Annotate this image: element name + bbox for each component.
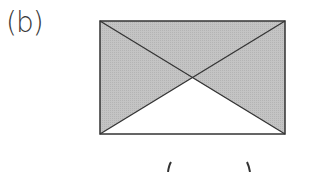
left-paren-partial <box>168 162 171 172</box>
right-paren-partial <box>247 162 250 172</box>
rectangle-diagram <box>0 0 310 172</box>
